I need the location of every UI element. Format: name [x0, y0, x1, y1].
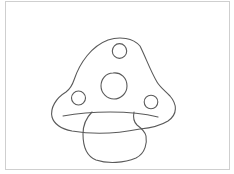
cap-brim-line: [63, 112, 158, 117]
center-spot: [101, 73, 127, 99]
right-spot: [144, 95, 158, 109]
stem-outline: [83, 112, 146, 162]
mushroom-drawing: [0, 0, 234, 174]
top-spot: [112, 44, 126, 59]
cap-outline: [52, 38, 176, 133]
left-spot: [72, 91, 86, 105]
